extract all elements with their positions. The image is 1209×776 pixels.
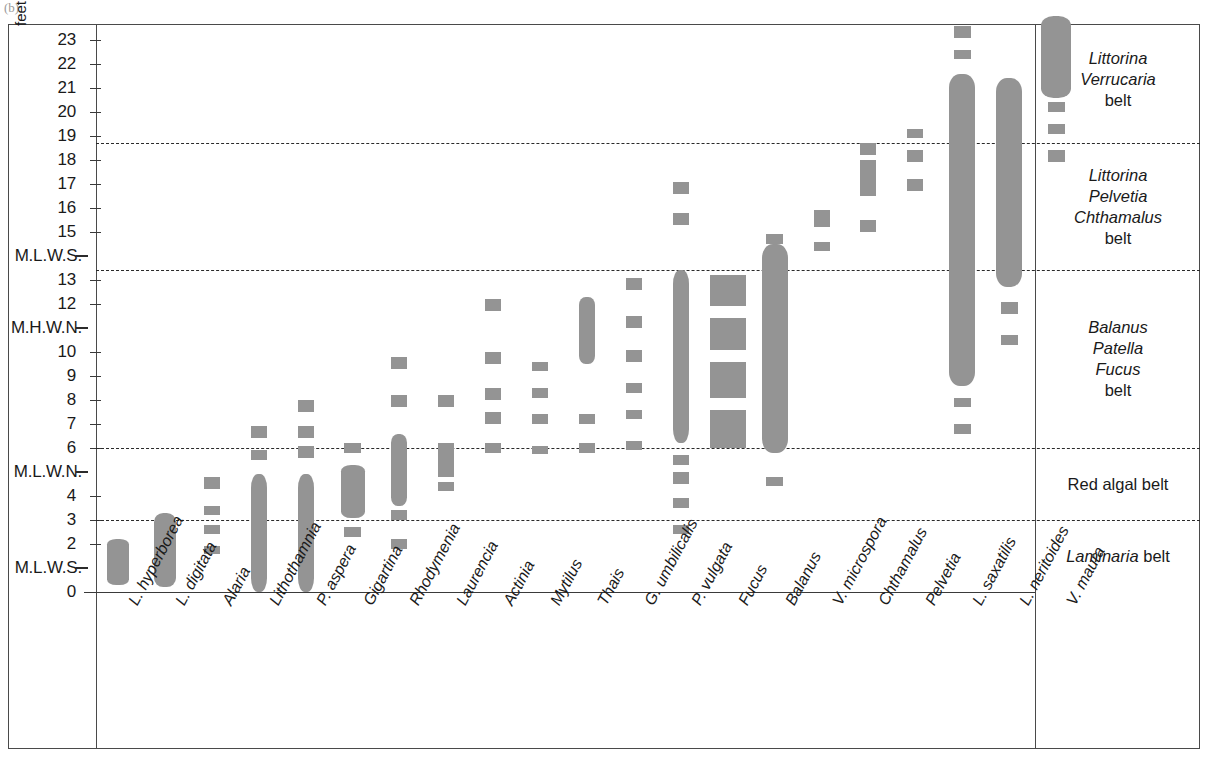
range-bar-dotted-segment: [298, 446, 314, 458]
range-bar-dotted-segment: [673, 455, 689, 465]
range-bar-solid-segment: [341, 465, 365, 518]
range-bar-solid-segment: [949, 74, 975, 386]
range-bar-solid-segment: [710, 318, 746, 349]
y-axis-tick-label: 19: [57, 127, 76, 144]
belt-name: Red algal belt: [1036, 474, 1200, 495]
range-bar-dotted-segment: [344, 443, 361, 453]
range-bar-dotted-segment: [814, 242, 830, 252]
y-axis-tick-label: 21: [57, 79, 76, 96]
chart-figure: (b) feet 232221201918171615M.L.W.S.1312M…: [0, 0, 1209, 776]
y-axis-tick-label: 16: [57, 199, 76, 216]
range-bar-solid-segment: [107, 539, 129, 585]
y-axis-tick-label: 18: [57, 151, 76, 168]
y-axis-tick-label: 2: [67, 535, 76, 552]
range-bar-dotted-segment: [298, 400, 314, 412]
belt-name: Laminaria belt: [1036, 546, 1200, 567]
belt-genus: Balanus: [1036, 317, 1200, 338]
range-bar-dotted-segment: [814, 210, 830, 227]
y-axis-tick-label: 10: [57, 343, 76, 360]
range-bar-solid-segment: [860, 160, 876, 196]
y-axis-datum-dash: [76, 327, 88, 329]
range-bar-dotted-segment: [251, 426, 267, 438]
range-bar-dotted-segment: [626, 383, 642, 393]
y-axis-tick-label: 20: [57, 103, 76, 120]
range-bar-dotted-segment: [485, 412, 501, 424]
range-bar-dotted-segment: [626, 350, 642, 362]
y-axis-tick-label: M.L.W.S.: [15, 559, 82, 576]
range-bar-dotted-segment: [298, 426, 314, 438]
range-bar-dotted-segment: [485, 388, 501, 400]
range-bar-dotted-segment: [204, 477, 220, 489]
belt-suffix: belt: [1036, 228, 1200, 249]
range-bar-dotted-segment: [532, 446, 548, 454]
belt-genus: Pelvetia: [1036, 186, 1200, 207]
y-axis-tick-label: 23: [57, 31, 76, 48]
range-bar-dotted-segment: [673, 182, 689, 194]
y-axis-tick-label: M.L.W.S.: [15, 247, 82, 264]
belt-suffix: belt: [1036, 90, 1200, 111]
belt-genus: Littorina: [1036, 48, 1200, 69]
range-bar-dotted-segment: [1001, 302, 1018, 314]
range-bar-solid-segment: [996, 78, 1022, 287]
y-axis-tick-label: 15: [57, 223, 76, 240]
range-bar-dotted-segment: [954, 26, 971, 38]
range-bar-dotted-segment: [766, 477, 783, 487]
range-bar-solid-segment: [710, 410, 746, 448]
range-bar-dotted-segment: [626, 278, 642, 290]
belt-genus: Fucus: [1036, 359, 1200, 380]
y-axis-tick-label: 13: [57, 271, 76, 288]
y-axis-tick-label: 3: [67, 511, 76, 528]
range-bar-dotted-segment: [438, 482, 454, 492]
y-axis-tick-label: 0: [67, 583, 76, 600]
range-bar-dotted-segment: [673, 498, 689, 508]
range-bar-solid-segment: [251, 474, 267, 592]
y-axis-tick-label: 9: [67, 367, 76, 384]
range-bar-dotted-segment: [860, 220, 876, 232]
range-bar-dotted-segment: [626, 441, 642, 451]
belt-genus: Chthamalus: [1036, 207, 1200, 228]
y-axis-tick-label: 6: [67, 439, 76, 456]
y-axis-tick-label: M.H.W.N.: [11, 319, 82, 336]
range-bar-dotted-segment: [860, 143, 876, 155]
range-bar-dotted-segment: [438, 395, 454, 407]
belt-label: BalanusPatellaFucusbelt: [1036, 317, 1200, 401]
belt-label: LittorinaPelvetiaChthamalusbelt: [1036, 165, 1200, 249]
belt-genus: Verrucaria: [1036, 69, 1200, 90]
y-axis-tick-label: 17: [57, 175, 76, 192]
y-axis-tick-label: 12: [57, 295, 76, 312]
range-bar-dotted-segment: [532, 414, 548, 424]
y-axis-tick-label: 7: [67, 415, 76, 432]
belt-label: LittorinaVerrucariabelt: [1036, 48, 1200, 111]
y-axis-datum-dash: [76, 567, 88, 569]
range-bar-dotted-segment: [954, 50, 971, 60]
range-bar-dotted-segment: [907, 129, 923, 139]
range-bar-dotted-segment: [766, 234, 783, 244]
y-axis-datum-dash: [76, 255, 88, 257]
range-bar-dotted-segment: [204, 506, 220, 516]
range-bar-solid-segment: [710, 362, 746, 398]
range-bar-solid-segment: [391, 434, 407, 506]
range-bar-dotted-segment: [1048, 124, 1065, 134]
range-bar-dotted-segment: [391, 510, 407, 520]
range-bar-dotted-segment: [1048, 150, 1065, 162]
range-bar-dotted-segment: [532, 388, 548, 398]
belt-label: Red algal belt: [1036, 474, 1200, 495]
range-bar-dotted-segment: [626, 410, 642, 420]
range-bar-dotted-segment: [391, 357, 407, 369]
range-bar-dotted-segment: [673, 472, 689, 484]
y-axis-tick-label: 22: [57, 55, 76, 72]
belt-genus: Patella: [1036, 338, 1200, 359]
range-bar-dotted-segment: [579, 443, 595, 453]
y-axis: 232221201918171615M.L.W.S.1312M.H.W.N.10…: [0, 0, 96, 600]
range-bar-dotted-segment: [907, 179, 923, 191]
range-bar-dotted-segment: [485, 352, 501, 364]
y-axis-tick-label: 8: [67, 391, 76, 408]
belt-label: Laminaria belt: [1036, 546, 1200, 567]
belt-suffix: belt: [1036, 380, 1200, 401]
range-bar-dotted-segment: [344, 527, 361, 537]
range-bar-dotted-segment: [485, 443, 501, 453]
range-bar-dotted-segment: [1001, 335, 1018, 345]
range-bar-dotted-segment: [954, 398, 971, 408]
range-bar-dotted-segment: [907, 150, 923, 162]
range-bar-solid-segment: [438, 443, 454, 477]
